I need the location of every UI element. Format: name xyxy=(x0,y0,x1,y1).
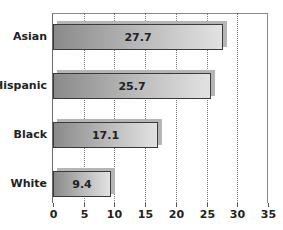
x-tick-label: 0 xyxy=(50,208,58,221)
bar-black: 17.1 xyxy=(53,122,158,148)
x-tick xyxy=(268,203,269,207)
bar-hispanic: 25.7 xyxy=(53,73,211,99)
x-tick xyxy=(176,203,177,207)
category-label: Black xyxy=(14,128,47,141)
x-tick-label: 15 xyxy=(138,208,153,221)
category-label: Asian xyxy=(13,30,47,43)
bar-white: 9.4 xyxy=(53,171,111,197)
x-tick-label: 35 xyxy=(261,208,276,221)
bar-value-label: 17.1 xyxy=(92,129,119,142)
x-tick-label: 5 xyxy=(81,208,89,221)
gridline xyxy=(237,13,238,203)
x-tick xyxy=(84,203,85,207)
bar-value-label: 25.7 xyxy=(118,80,145,93)
x-tick xyxy=(237,203,238,207)
x-tick-label: 10 xyxy=(107,208,122,221)
bar-asian: 27.7 xyxy=(53,24,223,50)
x-tick xyxy=(114,203,115,207)
x-tick-label: 25 xyxy=(200,208,215,221)
x-tick-label: 20 xyxy=(169,208,184,221)
bar-value-label: 9.4 xyxy=(72,178,92,191)
x-tick-label: 30 xyxy=(230,208,245,221)
x-tick xyxy=(207,203,208,207)
category-label: White xyxy=(11,177,47,190)
x-tick xyxy=(53,203,54,207)
category-label: Hispanic xyxy=(0,79,47,92)
bar-value-label: 27.7 xyxy=(124,31,151,44)
x-tick xyxy=(145,203,146,207)
